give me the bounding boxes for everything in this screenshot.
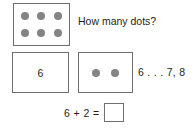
answer-input-box[interactable] (104, 103, 124, 122)
equation-row: 6 + 2 = (64, 103, 124, 122)
filled-dot-icon (37, 12, 45, 20)
numeral-box-value: 6 (13, 53, 68, 92)
counting-on-sequence: 6 . . . 7, 8 (138, 66, 185, 79)
numeral-box: 6 (12, 52, 69, 93)
worksheet-canvas: How many dots? 6 6 . . . 7, 8 6 + 2 = (0, 0, 196, 128)
filled-dot-icon (111, 69, 119, 77)
filled-dot-icon (21, 12, 29, 20)
question-prompt: How many dots? (78, 15, 156, 28)
filled-dot-icon (54, 29, 62, 37)
equation-expression: 6 + 2 = (64, 107, 100, 119)
filled-dot-icon (54, 12, 62, 20)
six-dots-box (13, 3, 70, 46)
filled-dot-icon (37, 29, 45, 37)
filled-dot-icon (92, 69, 100, 77)
filled-dot-icon (21, 29, 29, 37)
two-dots-box (78, 52, 133, 93)
dot-row-two (79, 53, 132, 92)
dot-grid-six (14, 4, 69, 45)
